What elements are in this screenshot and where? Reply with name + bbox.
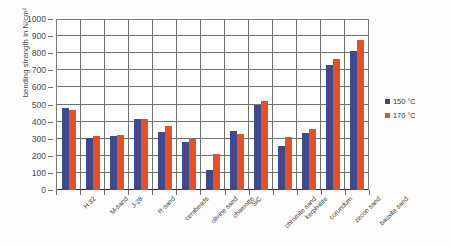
bar-1 xyxy=(237,134,244,190)
y-axis-tick-label: 500 xyxy=(32,100,46,110)
bar-1 xyxy=(357,40,364,190)
y-axis-tick-label: 200 xyxy=(32,151,46,161)
x-axis-tick-label: H 32 xyxy=(82,195,97,210)
chart-legend: 150 °C170 °C xyxy=(385,97,416,125)
x-axis-tick-label: J-28 xyxy=(130,195,144,209)
y-axis-tick-mark xyxy=(48,156,53,157)
bar-1 xyxy=(309,129,316,190)
bar-1 xyxy=(189,139,196,190)
bar-group xyxy=(297,20,321,190)
y-axis-tick-mark xyxy=(48,87,53,88)
y-axis-tick-label: 300 xyxy=(32,134,46,144)
bar-0 xyxy=(62,108,69,190)
bar-1 xyxy=(141,119,148,190)
legend-swatch-icon xyxy=(385,113,390,118)
x-axis-tick-label: R-sand xyxy=(157,195,177,215)
bar-0 xyxy=(182,142,189,190)
bar-groups xyxy=(57,20,368,190)
y-axis-tick-label: 900 xyxy=(32,31,46,41)
legend-item[interactable]: 170 °C xyxy=(385,111,416,120)
bar-group xyxy=(177,20,201,190)
bar-1 xyxy=(165,126,172,190)
bar-0 xyxy=(158,132,165,190)
bar-0 xyxy=(230,131,237,190)
bar-1 xyxy=(117,135,124,190)
bar-group xyxy=(249,20,273,190)
bar-0 xyxy=(326,65,333,190)
bar-group xyxy=(129,20,153,190)
y-axis-tick-mark xyxy=(48,70,53,71)
bar-group xyxy=(57,20,81,190)
bar-1 xyxy=(261,101,268,190)
x-axis-tick-label: bauxite sand xyxy=(378,195,409,226)
x-axis-tick-labels: H 32M-sandJ-28R-sandcerabeadsolivine san… xyxy=(56,195,369,246)
x-axis-tick-label: cerabeads xyxy=(183,195,210,222)
bar-1 xyxy=(213,154,220,190)
y-axis-tick-mark xyxy=(48,173,53,174)
bar-0 xyxy=(110,136,117,190)
y-axis-tick-label: 0 xyxy=(41,185,46,195)
bar-0 xyxy=(206,170,213,190)
y-axis-tick-labels: 01002003004005006007008009001000 xyxy=(0,19,53,190)
bar-group xyxy=(81,20,105,190)
legend-item-label: 150 °C xyxy=(393,97,416,106)
x-axis-tick-mark xyxy=(369,190,370,195)
bar-group xyxy=(273,20,297,190)
x-axis-tick-label: zircon sand xyxy=(353,195,382,224)
bar-0 xyxy=(134,119,141,190)
legend-item[interactable]: 150 °C xyxy=(385,97,416,106)
y-axis-tick-label: 1000 xyxy=(27,14,46,24)
legend-item-label: 170 °C xyxy=(393,111,416,120)
legend-swatch-icon xyxy=(385,99,390,104)
x-axis-tick-label: M-sand xyxy=(109,195,130,216)
bar-0 xyxy=(278,146,285,190)
bar-0 xyxy=(302,133,309,190)
bar-group xyxy=(105,20,129,190)
y-axis-tick-label: 600 xyxy=(32,82,46,92)
y-axis-tick-mark xyxy=(48,122,53,123)
bar-group xyxy=(321,20,345,190)
bar-0 xyxy=(86,138,93,190)
bar-1 xyxy=(285,137,292,190)
y-axis-tick-mark xyxy=(48,139,53,140)
bar-chart: bending strength in N/cm² 01002003004005… xyxy=(0,0,453,246)
y-axis-tick-label: 400 xyxy=(32,117,46,127)
y-axis-tick-label: 100 xyxy=(32,168,46,178)
y-axis-tick-mark xyxy=(48,53,53,54)
bar-1 xyxy=(93,136,100,190)
x-axis-tick-label: corundum xyxy=(327,195,353,221)
bar-group xyxy=(153,20,177,190)
plot-area xyxy=(56,19,369,190)
y-axis-tick-label: 800 xyxy=(32,48,46,58)
bar-group xyxy=(225,20,249,190)
y-axis-tick-label: 700 xyxy=(32,65,46,75)
y-axis-tick-mark xyxy=(48,190,53,191)
bar-0 xyxy=(350,51,357,190)
bar-1 xyxy=(333,59,340,190)
bar-1 xyxy=(69,110,76,190)
bar-group xyxy=(201,20,225,190)
bar-0 xyxy=(254,105,261,191)
y-axis-tick-mark xyxy=(48,105,53,106)
y-axis-tick-mark xyxy=(48,36,53,37)
bar-group xyxy=(345,20,368,190)
y-axis-tick-mark xyxy=(48,19,53,20)
